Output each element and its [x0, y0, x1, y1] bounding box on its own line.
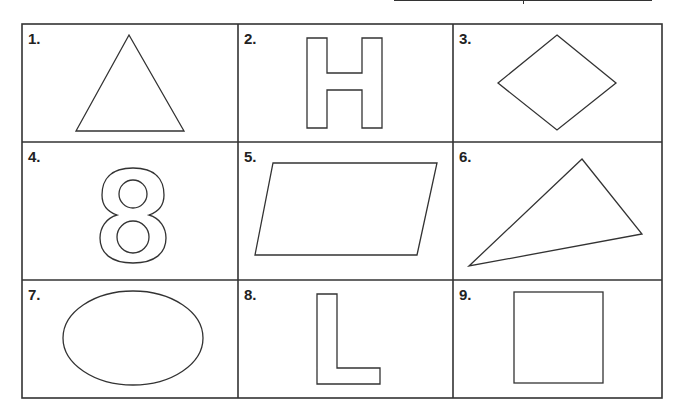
cell-label-3: 3. [459, 30, 472, 47]
cell-label-2: 2. [244, 30, 257, 47]
triangle-shape [76, 35, 184, 131]
cell-label-1: 1. [28, 30, 41, 47]
cell-label-9: 9. [459, 286, 472, 303]
digit-eight-shape [100, 168, 166, 263]
cell-label-6: 6. [459, 148, 472, 165]
letter-h-shape [307, 38, 382, 128]
cell-label-5: 5. [244, 148, 257, 165]
square-shape [514, 292, 603, 383]
letter-l-shape [317, 294, 380, 384]
parallelogram-shape [255, 163, 437, 255]
rhombus-shape [498, 35, 616, 130]
shape-grid: 1. 2. 3. 4. 5. 6. 7. 8. 9. [0, 0, 682, 414]
cell-label-4: 4. [28, 148, 41, 165]
cell-label-8: 8. [244, 286, 257, 303]
cell-label-7: 7. [28, 286, 41, 303]
grid-border [22, 24, 662, 398]
ellipse-shape [63, 291, 203, 385]
scalene-triangle-shape [469, 159, 642, 266]
